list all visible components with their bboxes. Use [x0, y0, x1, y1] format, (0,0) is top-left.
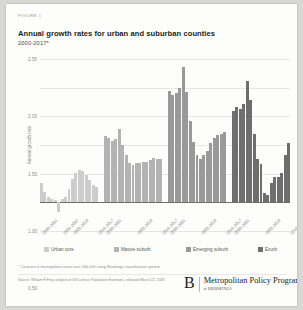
- bar-chart-plot-area: Annual growth rate -0.500.000.501.001.50…: [40, 59, 290, 231]
- bar: [220, 134, 223, 203]
- legend-swatch: [44, 247, 49, 252]
- bar: [185, 92, 188, 203]
- legend-label: Urban core: [51, 247, 74, 252]
- figure-title: Annual growth rates for urban and suburb…: [18, 29, 215, 38]
- y-axis-tick-label: 1.00: [28, 229, 37, 234]
- bar: [270, 183, 273, 202]
- bar: [149, 160, 152, 202]
- brookings-b-logo: B: [184, 276, 195, 290]
- legend-swatch: [186, 247, 191, 252]
- bar: [104, 136, 107, 203]
- bar: [78, 170, 81, 202]
- bar: [68, 189, 71, 203]
- bar: [128, 163, 131, 203]
- bar: [81, 171, 84, 202]
- bar: [125, 155, 128, 203]
- bar: [246, 81, 249, 202]
- bar: [239, 109, 242, 202]
- legend-label: Exurb: [265, 247, 277, 252]
- legend-label: Emerging suburb: [193, 247, 228, 252]
- bar: [266, 195, 269, 202]
- y-axis-tick-label: 2.00: [28, 114, 37, 119]
- bar: [260, 164, 263, 202]
- bar: [135, 163, 138, 202]
- bar: [182, 67, 185, 202]
- bar: [256, 159, 259, 202]
- bar: [43, 192, 46, 202]
- bar: [50, 199, 53, 202]
- bar: [171, 95, 174, 203]
- bar: [47, 197, 50, 203]
- bar: [132, 165, 135, 202]
- program-affiliation: at BROOKINGS: [204, 287, 297, 291]
- bar: [213, 138, 216, 203]
- figure-card: FIGURE 1 Annual growth rates for urban a…: [6, 4, 297, 306]
- bar: [159, 159, 162, 203]
- legend-item: Emerging suburb: [186, 247, 228, 252]
- bar: [216, 135, 219, 202]
- chart-legend: Urban coreMature suburbEmerging suburbEx…: [36, 247, 286, 257]
- bar: [242, 104, 245, 203]
- bar: [152, 158, 155, 203]
- bar: [111, 141, 114, 202]
- bar: [92, 185, 95, 203]
- footer-divider: [18, 274, 286, 275]
- bar: [280, 173, 283, 203]
- gridline: 2.00: [40, 88, 290, 89]
- bar: [145, 162, 148, 202]
- y-axis-tick-label: 0.50: [28, 286, 37, 291]
- bar: [253, 134, 256, 203]
- bar: [202, 155, 205, 203]
- legend-label: Mature suburb: [121, 247, 151, 252]
- bar: [178, 88, 181, 202]
- bar: [95, 187, 98, 202]
- brookings-lockup: B Metropolitan Policy Program at BROOKIN…: [184, 276, 297, 292]
- bar: [114, 139, 117, 203]
- bar: [249, 100, 252, 203]
- bar: [192, 142, 195, 202]
- bar: [235, 107, 238, 202]
- legend-item: Exurb: [258, 247, 277, 252]
- bar: [232, 111, 235, 203]
- legend-item: Urban core: [44, 247, 74, 252]
- bar: [199, 159, 202, 203]
- bar: [121, 145, 124, 202]
- bar: [40, 183, 43, 202]
- program-name: Metropolitan Policy Program: [204, 276, 297, 286]
- bar: [61, 199, 64, 202]
- lockup-rule: [199, 277, 200, 292]
- bar: [64, 197, 67, 203]
- legend-swatch: [114, 247, 119, 252]
- legend-swatch: [258, 247, 263, 252]
- y-axis-tick-label: 2.50: [28, 57, 37, 62]
- figure-footnote: * Counties in metropolitan areas over 50…: [18, 265, 288, 269]
- bar: [196, 155, 199, 203]
- bar: [156, 159, 159, 202]
- bar: [168, 91, 171, 203]
- bar: [273, 177, 276, 203]
- bar: [287, 143, 290, 202]
- bar: [85, 175, 88, 202]
- figure-subtitle: 2000-2017*: [18, 40, 49, 46]
- bar: [189, 121, 192, 202]
- legend-item: Mature suburb: [114, 247, 151, 252]
- bar: [142, 162, 145, 203]
- figure-source: Source: William H Frey analysis of US Ce…: [18, 278, 168, 283]
- bar: [118, 129, 121, 202]
- y-axis-label: Annual growth rate: [27, 126, 32, 165]
- bar: [284, 155, 287, 203]
- bar: [57, 202, 60, 212]
- gridline: 1.50: [40, 116, 290, 117]
- bar: [175, 93, 178, 202]
- bar: [206, 151, 209, 203]
- zero-axis-line: 0.00: [40, 202, 290, 203]
- bar: [54, 200, 57, 202]
- bar: [209, 143, 212, 202]
- gridline: 2.50: [40, 59, 290, 60]
- bar: [263, 193, 266, 202]
- bar: [223, 132, 226, 202]
- bar: [277, 177, 280, 202]
- bar: [107, 138, 110, 202]
- bar: [74, 173, 77, 203]
- bar: [88, 180, 91, 202]
